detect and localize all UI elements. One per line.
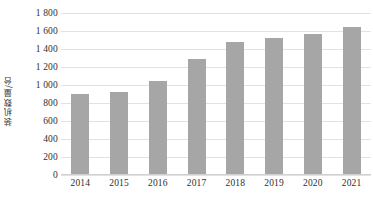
bar[interactable] xyxy=(110,92,128,175)
y-axis-tick-label: 1 200 xyxy=(36,62,58,72)
x-axis-tick-label: 2014 xyxy=(61,178,100,196)
bar-slot xyxy=(139,13,178,175)
y-axis-tick-label: 800 xyxy=(43,98,58,108)
bar[interactable] xyxy=(226,42,244,175)
gridline xyxy=(61,175,371,176)
bar[interactable] xyxy=(304,34,322,175)
y-axis-tick-labels: 02004006008001 0001 2001 4001 6001 800 xyxy=(18,0,61,201)
x-axis-tick-label: 2019 xyxy=(255,178,294,196)
y-axis-tick-label: 1 600 xyxy=(36,26,58,36)
bar[interactable] xyxy=(265,38,283,175)
y-axis-tick-label: 600 xyxy=(43,116,58,126)
bar-slot xyxy=(100,13,139,175)
y-axis-title-label: 装机数量/台 xyxy=(3,75,15,126)
y-axis-tick-label: 1 400 xyxy=(36,44,58,54)
y-axis-tick-label: 0 xyxy=(53,170,58,180)
bar[interactable] xyxy=(343,27,361,175)
bar[interactable] xyxy=(188,59,206,175)
x-axis-tick-label: 2016 xyxy=(139,178,178,196)
bar-slot xyxy=(255,13,294,175)
bar-series xyxy=(61,13,371,175)
bar[interactable] xyxy=(149,81,167,175)
bar-slot xyxy=(332,13,371,175)
x-axis-tick-label: 2017 xyxy=(177,178,216,196)
bar-slot xyxy=(216,13,255,175)
bar-slot xyxy=(294,13,333,175)
x-axis-tick-label: 2015 xyxy=(100,178,139,196)
y-axis-tick-label: 200 xyxy=(43,152,58,162)
x-axis-tick-label: 2020 xyxy=(294,178,333,196)
bar-slot xyxy=(177,13,216,175)
bar[interactable] xyxy=(71,94,89,175)
y-axis-tick-label: 1 800 xyxy=(36,8,58,18)
y-axis-title: 装机数量/台 xyxy=(1,0,17,201)
plot-area xyxy=(61,13,371,175)
y-axis-tick-label: 1 000 xyxy=(36,80,58,90)
x-axis-tick-label: 2021 xyxy=(332,178,371,196)
y-axis-tick-label: 400 xyxy=(43,134,58,144)
bar-chart: 装机数量/台 02004006008001 0001 2001 4001 600… xyxy=(0,0,373,201)
bar-slot xyxy=(61,13,100,175)
x-axis-tick-label: 2018 xyxy=(216,178,255,196)
x-axis-tick-labels: 20142015201620172018201920202021 xyxy=(61,178,371,196)
x-axis-line xyxy=(61,174,371,175)
